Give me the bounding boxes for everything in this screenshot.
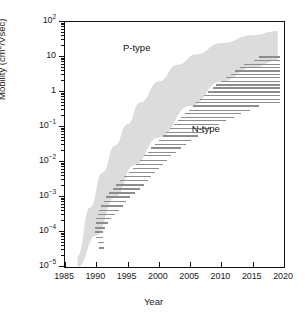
y-axis-tick-label: 10−4 [0, 226, 56, 235]
x-axis-tick [128, 262, 129, 267]
ntype-bar [148, 152, 177, 153]
ntype-bar [98, 242, 104, 243]
y-axis-tick-label: 1 [0, 86, 56, 95]
ntype-bar [101, 205, 122, 206]
ntype-bar [178, 120, 227, 121]
y-axis-title-exponent: 2 [0, 46, 2, 50]
x-axis-tick-label: 2005 [173, 272, 205, 281]
y-axis-tick-label: 10−5 [0, 261, 56, 270]
ntype-bar [163, 135, 198, 136]
x-axis-tick-label: 2020 [267, 272, 299, 281]
y-axis-tick-label: 10−1 [0, 121, 56, 130]
ntype-bar [159, 140, 192, 141]
ntype-bar [109, 192, 135, 193]
x-axis-tick [65, 262, 66, 267]
x-axis-tick-label: 1985 [48, 272, 80, 281]
y-axis-tick-label: 102 [0, 16, 56, 25]
ntype-bar [98, 214, 116, 215]
ntype-bar [96, 237, 102, 238]
ntype-bar [231, 74, 280, 75]
plot-clip: P-type N-type [65, 22, 284, 267]
x-axis-tick [253, 262, 254, 267]
ntype-bar [189, 110, 250, 111]
y-axis-tick-label: 10 [0, 51, 56, 60]
ntype-bar [96, 222, 109, 223]
x-axis-tick-label: 2010 [204, 272, 236, 281]
ntype-bar [200, 99, 280, 100]
ntype-bar [244, 64, 280, 65]
ntype-bar [240, 67, 280, 68]
ntype-bar [99, 247, 104, 248]
ntype-bar [151, 147, 181, 148]
y-axis-tick-label: 10−3 [0, 191, 56, 200]
ntype-bar [116, 184, 144, 185]
ntype-bar [221, 81, 280, 82]
ntype-bar [129, 172, 155, 173]
x-axis-tick-label: 1990 [79, 272, 111, 281]
x-axis-tick [159, 262, 160, 267]
series-label-ptype: P-type [123, 43, 150, 53]
x-axis-tick-label: 1995 [111, 272, 143, 281]
ntype-bar [140, 160, 167, 161]
ntype-bar [95, 227, 105, 228]
ntype-bar [213, 87, 281, 88]
ntype-bar [124, 176, 152, 177]
ntype-bar [193, 105, 259, 106]
ntype-bar [208, 91, 281, 92]
ntype-bar [181, 117, 234, 118]
ntype-bar [95, 231, 103, 232]
ntype-bar [226, 77, 280, 78]
x-axis-title: Year [0, 297, 307, 307]
x-axis-tick-label: 2015 [236, 272, 268, 281]
ntype-bar [196, 102, 280, 103]
y-axis-tick-label: 10−2 [0, 156, 56, 165]
ntype-bar [99, 210, 119, 211]
ntype-bar [216, 84, 280, 85]
ntype-bar [113, 188, 141, 189]
x-axis-tick-label: 2000 [142, 272, 174, 281]
ntype-bar [155, 144, 186, 145]
x-axis-tick [284, 262, 285, 267]
ntype-bar [259, 56, 280, 57]
ntype-bar [144, 155, 172, 156]
ntype-bar [254, 60, 280, 61]
x-axis-tick [221, 262, 222, 267]
x-axis-tick [190, 262, 191, 267]
ntype-bar [120, 180, 148, 181]
ntype-bar [133, 168, 159, 169]
plot-area: P-type N-type [64, 21, 285, 268]
series-label-ntype: N-type [192, 124, 220, 134]
x-axis-tick [96, 262, 97, 267]
ntype-bar [136, 164, 162, 165]
ntype-bar [96, 218, 111, 219]
mobility-vs-year-chart: Mobility (cm2/Vsec) 10210110−110−210−310… [0, 0, 307, 321]
ntype-bar [106, 196, 130, 197]
ntype-bar [185, 113, 241, 114]
ntype-bar [204, 95, 280, 96]
ntype-bar [235, 70, 280, 71]
ntype-bar [104, 201, 127, 202]
